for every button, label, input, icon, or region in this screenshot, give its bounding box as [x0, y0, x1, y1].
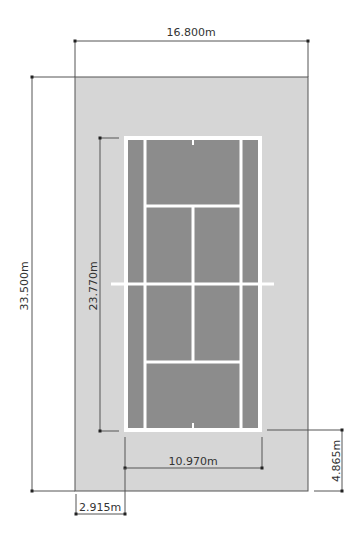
- label-total-width: 16.800m: [166, 26, 215, 39]
- tennis-court-diagram: 16.800m 33.500m 23.770m 10.970m 4.865m: [0, 0, 364, 543]
- label-total-length: 33.500m: [18, 261, 31, 310]
- label-side-clearance: 2.915m: [79, 501, 121, 514]
- label-court-length: 23.770m: [87, 261, 100, 310]
- dimension-total-length: [31, 76, 76, 493]
- label-singles-width: 10.970m: [168, 455, 217, 468]
- dimension-total-width: [74, 40, 310, 78]
- label-end-clearance: 4.865m: [330, 440, 343, 482]
